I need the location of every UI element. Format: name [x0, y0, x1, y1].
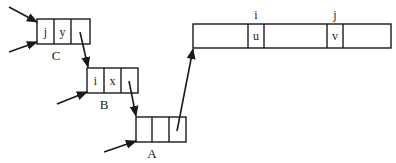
- arrow-into-a: [104, 141, 136, 152]
- index-label-j: j: [332, 8, 336, 22]
- record-a-label: A: [147, 146, 157, 161]
- array-cell-u: u: [253, 29, 259, 43]
- arrow-into-c-lower: [9, 42, 37, 52]
- arrow-into-b: [57, 92, 87, 104]
- record-b-cell-2: x: [110, 74, 116, 88]
- record-c-cell-1: j: [43, 25, 47, 39]
- index-label-i: i: [254, 8, 258, 22]
- record-c-cell-2: y: [60, 25, 66, 39]
- array-record: u v i j: [193, 8, 391, 48]
- diagram-canvas: j y C i x B A u v i j: [0, 0, 396, 163]
- record-b-label: B: [100, 97, 109, 112]
- arrow-into-c-upper: [9, 7, 37, 22]
- array-cell-v: v: [332, 29, 338, 43]
- record-c-label: C: [52, 48, 61, 63]
